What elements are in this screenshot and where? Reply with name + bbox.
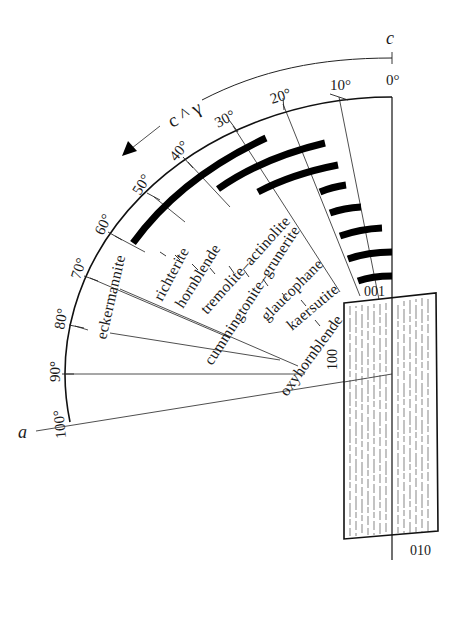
face-label-010: 010 [410,543,431,558]
range-bar-oxyhornblende-a [348,252,392,259]
deg-label-0: 0° [386,72,400,88]
range-bar-richterite [133,138,266,243]
deg-label-50: 50° [129,171,154,197]
tick-80 [69,325,84,328]
deg-label-20: 20° [268,85,293,107]
tick-60 [108,232,122,240]
deg-label-100: 100° [50,409,69,439]
mineral-labels: eckermannite richterite hornblende tremo… [92,212,345,398]
radial-line-80b [110,333,280,360]
c-gamma-arrow-line [132,126,160,148]
face-label-100: 100 [325,349,340,370]
face-label-001: 001 [364,284,385,299]
deg-label-10: 10° [330,77,351,93]
a-axis-line [36,374,392,431]
c-gamma-arc [202,58,392,100]
tick-10 [330,94,348,100]
arrow-left-down-icon [122,141,137,156]
tick-50 [147,193,160,200]
range-bar-kaersutite [340,228,382,236]
c-axis-label: c [386,28,394,48]
tick-70 [84,276,98,281]
crystal-outline [344,293,438,539]
deg-label-80: 80° [51,307,70,330]
mineral-label-eckermannite: eckermannite [92,253,128,341]
deg-label-40: 40° [166,138,192,164]
range-bar-glaucophane [330,207,361,213]
amphibole-extinction-diagram: c c ^ γ a 0° 10° 20° 30 [0,0,465,622]
tick-40 [183,157,193,168]
c-gamma-label: c ^ γ [164,96,205,131]
a-axis-label: a [18,422,27,442]
crystal-section [344,293,438,539]
range-bar-oxyhornblende-b [358,276,392,281]
deg-label-90: 90° [47,361,63,382]
range-bar-cummingtonite-grunerite [320,185,346,192]
